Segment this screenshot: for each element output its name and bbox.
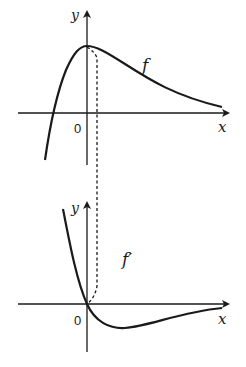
top-origin-label: 0 xyxy=(74,121,81,136)
top-y-label: y xyxy=(70,7,80,23)
bottom-x-label: x xyxy=(218,310,227,328)
f-prime-label: f′ xyxy=(120,249,132,269)
f-curve xyxy=(45,46,222,160)
bottom-graph: y 0 x f′ xyxy=(18,200,228,352)
diagram-canvas: y 0 x f y 0 x f′ xyxy=(0,0,246,367)
top-x-label: x xyxy=(218,118,227,136)
dashed-connector xyxy=(87,47,97,304)
bottom-y-label: y xyxy=(70,200,80,216)
f-label: f xyxy=(140,55,151,75)
top-graph: y 0 x f xyxy=(18,7,228,165)
bottom-origin-label: 0 xyxy=(74,313,81,328)
